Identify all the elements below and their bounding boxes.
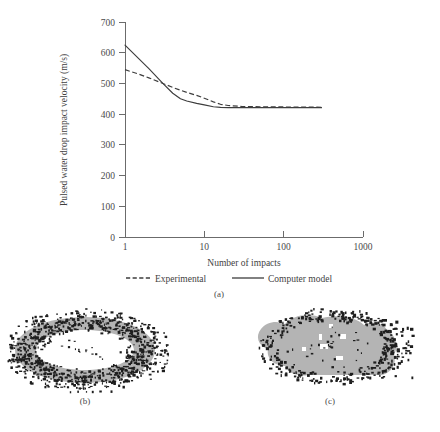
x-axis-title: Number of impacts — [207, 258, 281, 268]
legend-label-experimental: Experimental — [155, 274, 207, 284]
x-axis-tick-labels: 1 10 100 1000 — [123, 242, 373, 252]
x-tick-label: 10 — [200, 242, 210, 252]
y-tick-label: 200 — [101, 171, 116, 181]
panel-caption-a: (a) — [214, 289, 224, 299]
panel-c-micrograph: (c) — [258, 308, 415, 406]
y-tick-label: 100 — [101, 202, 116, 212]
y-tick-label: 300 — [101, 140, 116, 150]
panel-a-chart: 700 600 500 400 300 200 100 0 1 10 100 — [0, 0, 440, 300]
y-tick-label: 600 — [101, 48, 116, 58]
y-tick-label: 0 — [110, 233, 115, 243]
panel-caption-c: (c) — [325, 396, 335, 406]
chart-legend: Experimental Computer model — [126, 274, 332, 284]
chart-svg: 700 600 500 400 300 200 100 0 1 10 100 — [0, 0, 440, 300]
x-tick-label: 100 — [277, 242, 292, 252]
x-tick-label: 1 — [123, 242, 128, 252]
y-tick-label: 700 — [101, 18, 116, 28]
y-tick-label: 500 — [101, 79, 116, 89]
y-axis-title: Pulsed water drop impact velocity (m/s) — [59, 54, 70, 206]
x-axis-ticks — [125, 231, 363, 237]
x-tick-label: 1000 — [354, 242, 373, 252]
y-axis-tick-labels: 700 600 500 400 300 200 100 0 — [101, 18, 116, 243]
figure-container: 700 600 500 400 300 200 100 0 1 10 100 — [0, 0, 440, 432]
y-tick-label: 400 — [101, 110, 116, 120]
series-line-computer-model — [125, 45, 322, 108]
panel-bc-row: (b) (c) — [0, 300, 440, 432]
y-axis-ticks — [119, 22, 125, 237]
panel-caption-b: (b) — [80, 396, 91, 406]
micrographs-svg: (b) (c) — [0, 300, 440, 432]
panel-b-micrograph: (b) — [8, 308, 169, 406]
legend-label-computer-model: Computer model — [268, 274, 332, 284]
